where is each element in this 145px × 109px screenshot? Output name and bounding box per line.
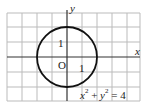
y-axis-label: y <box>70 3 75 14</box>
x-tick-label: 1 <box>79 63 85 74</box>
equation-label: x2 + y2 = 4 <box>80 90 126 101</box>
x-axis-label: x <box>135 46 140 57</box>
y-tick-label: 1 <box>58 38 64 49</box>
origin-label: O <box>58 60 66 71</box>
